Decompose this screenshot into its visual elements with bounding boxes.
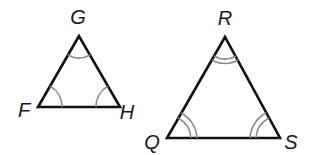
angle-s-arc-inner [256, 118, 269, 138]
angle-f-arc [50, 86, 62, 107]
vertex-label-g: G [70, 6, 86, 28]
vertex-label-r: R [218, 7, 232, 29]
angle-r-arc-inner [214, 56, 236, 59]
triangle-fgh-sides [38, 36, 120, 107]
angle-q-arc-inner [178, 118, 191, 138]
triangle-fgh: G F H [18, 6, 135, 123]
similar-triangles-diagram: G F H R Q S [0, 0, 314, 155]
angle-g-arc [68, 55, 90, 58]
vertex-label-h: H [120, 101, 135, 123]
angle-h-arc [96, 86, 108, 107]
angle-s-arc-outer [250, 113, 266, 138]
vertex-label-f: F [18, 99, 32, 121]
triangle-qrs: R Q S [144, 7, 298, 153]
vertex-label-q: Q [144, 131, 160, 153]
angle-r-arc-outer [212, 60, 238, 63]
angle-q-arc-outer [181, 113, 197, 138]
vertex-label-s: S [284, 131, 298, 153]
